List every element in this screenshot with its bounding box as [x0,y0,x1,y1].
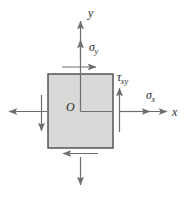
y-axis-label: y [88,7,93,19]
stress-element-drawing [0,0,189,197]
origin-label: O [66,101,75,113]
sigma-y-label: σy [89,41,99,53]
tau-xy-subscript: xy [121,77,128,86]
plane-stress-element-figure: y x σy σx τxy O [0,0,189,197]
tau-xy-label: τxy [117,71,129,83]
sigma-y-subscript: y [94,47,98,56]
x-axis-label: x [172,106,177,118]
sigma-x-label: σx [146,89,156,101]
sigma-x-subscript: x [151,95,155,104]
